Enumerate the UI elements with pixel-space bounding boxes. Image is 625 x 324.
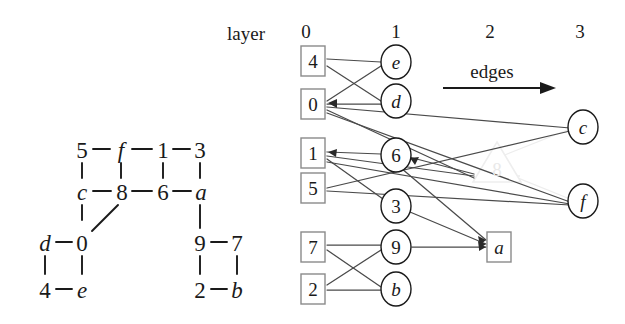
left-node-3: 3	[194, 139, 206, 162]
left-node-9: 9	[194, 232, 206, 255]
layered-edge-4-e	[327, 59, 381, 62]
layered-node-label-a: a	[494, 238, 504, 257]
left-node-0: 0	[76, 232, 88, 255]
layered-node-label-5: 5	[308, 179, 318, 198]
left-node-c: c	[77, 181, 87, 204]
layered-node-label-8: 8	[492, 160, 502, 179]
left-node-4: 4	[39, 279, 51, 302]
layered-edge-0-c	[327, 107, 570, 128]
layer-header-2: 2	[485, 22, 495, 41]
layered-node-label-e: e	[392, 53, 400, 72]
left-node-5: 5	[76, 139, 88, 162]
left-graph-edges	[45, 149, 237, 289]
layered-node-label-9: 9	[391, 238, 401, 257]
layered-node-label-3: 3	[391, 197, 401, 216]
edges-direction-arrow	[443, 82, 556, 94]
layered-node-label-4: 4	[308, 52, 318, 71]
layered-node-label-6: 6	[391, 146, 401, 165]
layer-header-3: 3	[575, 22, 585, 41]
left-node-b: b	[231, 279, 243, 302]
left-node-f: f	[118, 139, 124, 162]
layered-node-label-b: b	[391, 280, 401, 299]
left-node-d: d	[39, 232, 51, 255]
left-node-6: 6	[157, 181, 169, 204]
edges-direction-label: edges	[470, 62, 513, 81]
layer-header-0: 0	[301, 22, 311, 41]
layered-edge-0-f	[327, 113, 570, 202]
graph-layout-figure: layer 0 1 2 3 edges 5 f 1 3 c 8 6 a d 0 …	[0, 0, 625, 324]
layer-word-label: layer	[227, 24, 265, 43]
left-node-a: a	[195, 181, 207, 204]
layered-graph-edges	[327, 59, 570, 290]
left-node-7: 7	[231, 232, 243, 255]
layered-node-label-d: d	[391, 92, 401, 111]
left-node-2: 2	[194, 279, 206, 302]
layered-edge-3-a	[410, 212, 486, 244]
left-edge-8-0	[92, 205, 118, 231]
layered-node-label-7: 7	[308, 238, 318, 257]
left-node-1: 1	[157, 139, 169, 162]
layered-node-label-f: f	[580, 192, 585, 211]
left-node-e: e	[77, 279, 87, 302]
layered-node-label-0: 0	[308, 95, 318, 114]
layer-header-1: 1	[391, 22, 401, 41]
layered-graph-nodes	[301, 45, 598, 306]
layered-node-label-2: 2	[308, 280, 318, 299]
layered-node-label-1: 1	[308, 144, 318, 163]
layered-edge-5-c	[327, 131, 570, 188]
left-node-8: 8	[116, 181, 128, 204]
layered-edge-6-a	[401, 168, 486, 240]
layered-node-label-c: c	[579, 118, 587, 137]
